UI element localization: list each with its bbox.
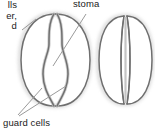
cutoff-caption-line-3: d xyxy=(0,21,17,32)
label-stoma: stoma xyxy=(73,0,99,10)
stoma-figure: lls er, d stoma guard cells xyxy=(0,0,155,131)
cutoff-caption: lls er, d xyxy=(0,0,17,32)
label-guard-cells: guard cells xyxy=(3,118,50,129)
open-stoma-diagram xyxy=(20,14,90,106)
stoma-diagram-svg xyxy=(0,0,155,131)
closed-stoma-diagram xyxy=(98,16,152,104)
